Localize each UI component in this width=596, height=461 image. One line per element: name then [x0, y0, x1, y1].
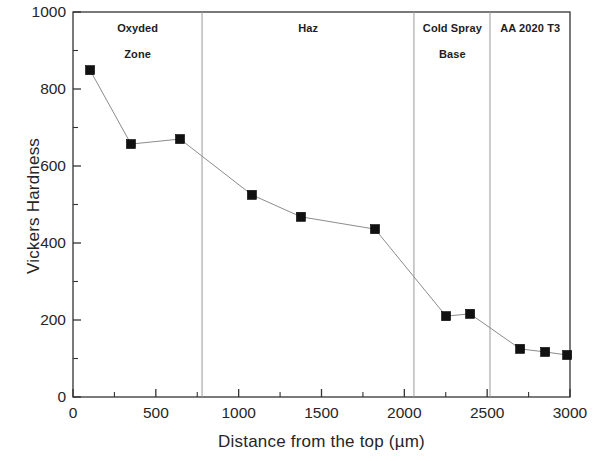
zone-label: Base: [439, 48, 466, 60]
vickers-hardness-chart: Vickers Hardness Distance from the top (…: [0, 0, 596, 461]
zone-label: Oxyded: [117, 22, 158, 34]
zone-label: Zone: [124, 48, 151, 60]
zone-label: Cold Spray: [423, 22, 482, 34]
zone-label: Haz: [298, 22, 318, 34]
zone-label-layer: OxydedZoneHazCold SprayBaseAA 2020 T3: [0, 0, 596, 461]
zone-label: AA 2020 T3: [500, 22, 560, 34]
